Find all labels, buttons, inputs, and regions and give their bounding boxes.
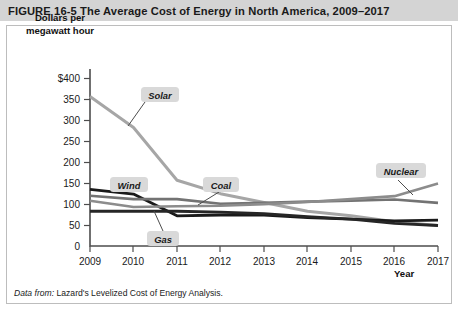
x-tick-2014: 2014: [296, 256, 319, 267]
callout-coal: Coal: [203, 177, 239, 192]
callout-solar-label: Solar: [148, 90, 173, 101]
y-axis-title-line1: Dollars per: [35, 12, 85, 23]
y-tick-0: 0: [74, 241, 80, 252]
x-tick-2015: 2015: [340, 256, 363, 267]
y-tick-100: 100: [63, 199, 80, 210]
figure-container: FIGURE 16-5 The Average Cost of Energy i…: [0, 0, 458, 310]
y-tick-300: 300: [63, 115, 80, 126]
leader-solar: [128, 102, 145, 126]
callout-wind-label: Wind: [118, 180, 141, 191]
callout-gas: Gas: [147, 231, 179, 246]
y-tick-350: 350: [63, 94, 80, 105]
leader-gas: [154, 211, 163, 231]
y-tick-50: 50: [69, 220, 81, 231]
y-axis-tick-labels: $400 350 300 250 200 150 100 50 0: [58, 73, 81, 252]
callout-nuclear-label: Nuclear: [384, 166, 420, 177]
y-tick-200: 200: [63, 157, 80, 168]
y-tick-250: 250: [63, 136, 80, 147]
callout-solar: Solar: [141, 87, 179, 102]
y-tick-marks: [84, 79, 90, 226]
x-tick-marks: [90, 246, 438, 252]
x-tick-2009: 2009: [79, 256, 102, 267]
x-tick-2011: 2011: [166, 256, 188, 267]
x-tick-2010: 2010: [122, 256, 145, 267]
y-tick-400: $400: [58, 73, 81, 84]
x-tick-2017: 2017: [427, 256, 450, 267]
y-tick-150: 150: [63, 178, 80, 189]
line-chart-plot: $400 350 300 250 200 150 100 50 0: [6, 25, 452, 304]
callout-nuclear: Nuclear: [376, 163, 426, 178]
series-line-gas: [90, 211, 438, 225]
x-tick-2016: 2016: [383, 256, 406, 267]
x-tick-2012: 2012: [209, 256, 232, 267]
callout-wind: Wind: [110, 177, 148, 192]
callout-coal-label: Coal: [211, 180, 232, 191]
x-axis-tick-labels: 2009 2010 2011 2012 2013 2014 2015 2016 …: [79, 256, 450, 267]
callout-gas-label: Gas: [154, 234, 172, 245]
x-tick-2013: 2013: [253, 256, 276, 267]
data-series-group: [90, 97, 438, 226]
